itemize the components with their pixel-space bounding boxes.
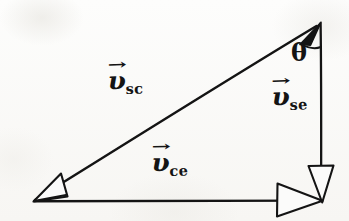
v-sc-base-glyph: υ [107,66,126,95]
v-se-base-glyph: υ [271,82,290,112]
label-v-ce: → υ ce [152,148,189,178]
label-theta: θ [291,41,307,65]
vector-v-se [309,24,334,203]
v-se-subscript: se [289,95,308,113]
vector-v-ce [35,184,323,217]
v-se-glyph-stack: → υ [272,82,290,112]
v-ce-base-glyph: υ [151,148,170,177]
vector-diagram-canvas: → υ sc → υ se → υ ce θ [0,0,349,221]
v-sc-subscript: sc [125,80,143,97]
label-v-se: → υ se [272,81,308,111]
v-ce-subscript: ce [169,162,188,179]
v-ce-glyph-stack: → υ [152,148,170,177]
label-v-sc: → υ sc [108,66,144,96]
v-sc-glyph-stack: → υ [108,66,126,95]
v-ce-arrowhead [277,184,323,217]
v-ce-shaft [35,200,311,201]
